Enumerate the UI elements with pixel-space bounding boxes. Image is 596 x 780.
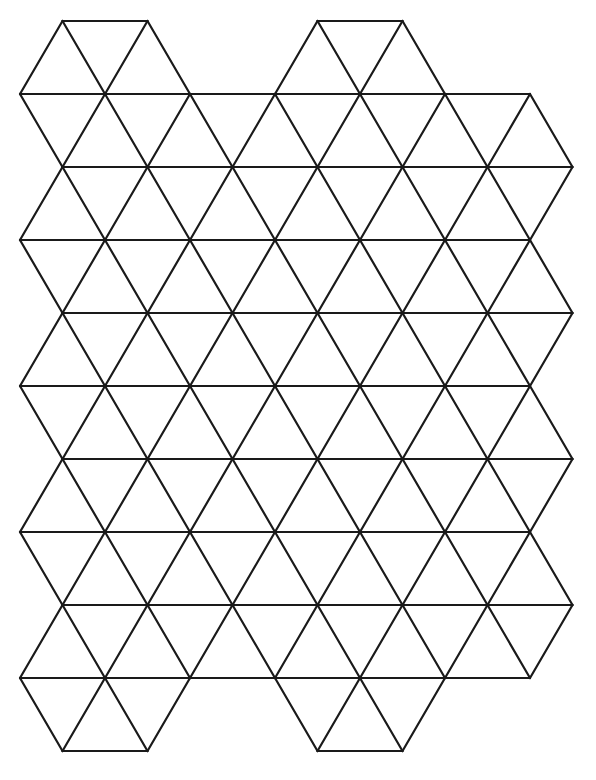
- canvas-background: [0, 0, 596, 780]
- page-root: [0, 0, 596, 780]
- triangular-grid-svg: [0, 0, 596, 780]
- triangular-grid-figure: [0, 0, 596, 780]
